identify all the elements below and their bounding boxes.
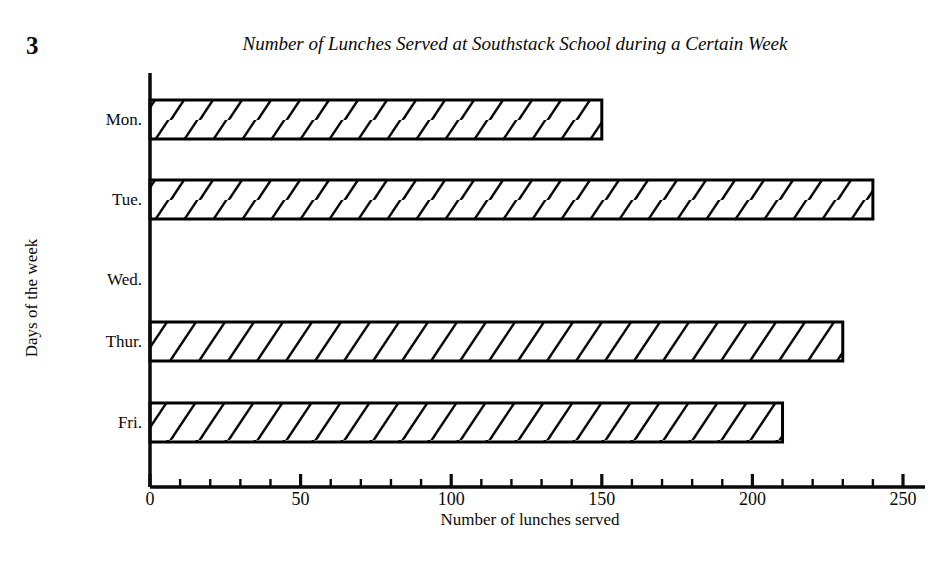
- x-tick-label-150: 150: [567, 489, 637, 510]
- bar-tue: [150, 180, 873, 219]
- bars-group: [150, 100, 873, 442]
- x-tick-label-200: 200: [717, 489, 787, 510]
- x-tick-label-100: 100: [416, 489, 486, 510]
- bar-mon: [150, 100, 602, 139]
- bar-chart-plot: [0, 0, 952, 573]
- bar-thur: [150, 322, 843, 361]
- x-tick-label-50: 50: [266, 489, 336, 510]
- bar-fri: [150, 403, 783, 442]
- x-tick-label-250: 250: [868, 489, 938, 510]
- x-tick-label-0: 0: [115, 489, 185, 510]
